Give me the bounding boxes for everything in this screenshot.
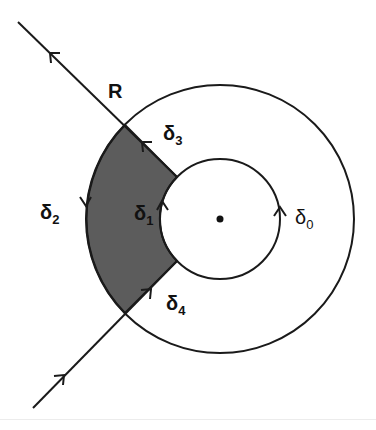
label-delta-0: δ0	[295, 206, 313, 232]
contour-diagram: R δ3 δ2 δ1 δ0 δ4	[0, 0, 376, 430]
shaded-region	[86, 125, 177, 313]
center-dot	[217, 216, 224, 223]
label-delta-4: δ4	[166, 292, 186, 318]
label-delta-2: δ2	[40, 201, 59, 227]
ray-upper-segment	[18, 22, 177, 177]
bottom-rule	[0, 419, 376, 420]
label-delta-3: δ3	[163, 122, 182, 148]
label-R: R	[108, 80, 123, 102]
